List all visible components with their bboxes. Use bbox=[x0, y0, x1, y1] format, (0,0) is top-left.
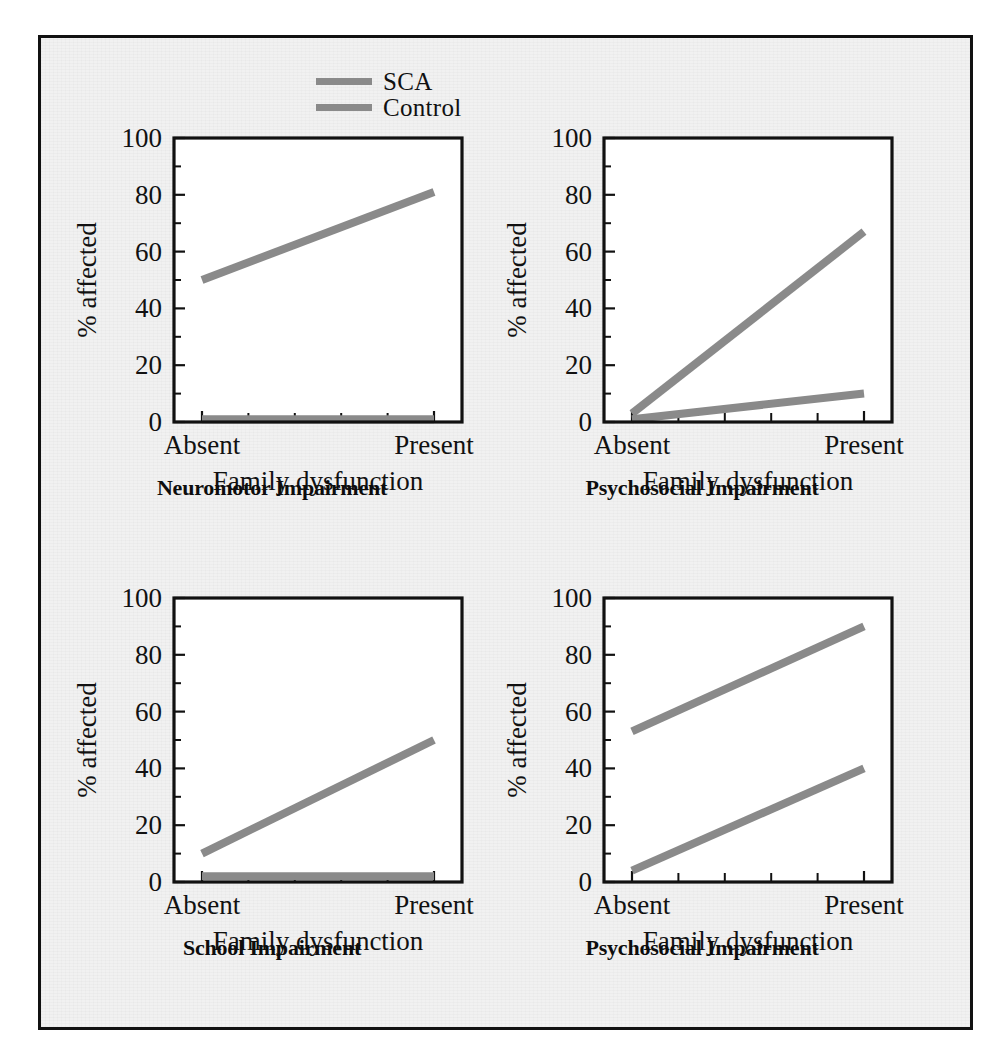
legend-swatch-control bbox=[316, 104, 372, 111]
plot-background bbox=[604, 598, 892, 882]
y-tick-label: 0 bbox=[579, 407, 593, 437]
chart-panel-psychosocial-impairment-bottom: 020406080100AbsentPresentFamily dysfunct… bbox=[492, 580, 912, 1000]
legend-label-sca: SCA bbox=[383, 69, 433, 94]
panel-title: Psychosocial Impairment bbox=[492, 935, 912, 961]
y-tick-label: 20 bbox=[135, 810, 162, 840]
y-tick-label: 100 bbox=[552, 123, 593, 153]
y-tick-label: 80 bbox=[135, 640, 162, 670]
y-tick-label: 60 bbox=[135, 697, 162, 727]
y-axis-title: % affected bbox=[502, 682, 532, 798]
chart-panel-psychosocial-impairment-top: 020406080100AbsentPresentFamily dysfunct… bbox=[492, 120, 912, 540]
y-tick-label: 60 bbox=[565, 697, 592, 727]
chart-panel-school-impairment: 020406080100AbsentPresentFamily dysfunct… bbox=[62, 580, 482, 1000]
y-axis-title: % affected bbox=[72, 682, 102, 798]
y-axis-title: % affected bbox=[502, 222, 532, 338]
legend-label-control: Control bbox=[383, 95, 462, 120]
y-tick-label: 0 bbox=[579, 867, 593, 897]
legend-item-sca: SCA bbox=[316, 68, 526, 94]
y-tick-label: 0 bbox=[149, 407, 163, 437]
x-tick-label: Present bbox=[394, 430, 474, 460]
y-tick-label: 20 bbox=[135, 350, 162, 380]
y-tick-label: 60 bbox=[565, 237, 592, 267]
y-tick-label: 40 bbox=[135, 293, 162, 323]
x-tick-label: Absent bbox=[164, 890, 241, 920]
x-tick-label: Present bbox=[824, 890, 904, 920]
figure-root: SCA Control 020406080100AbsentPresentFam… bbox=[0, 0, 1007, 1060]
y-tick-label: 40 bbox=[565, 293, 592, 323]
legend-item-control: Control bbox=[316, 94, 526, 120]
y-tick-label: 100 bbox=[122, 583, 163, 613]
chart-legend: SCA Control bbox=[316, 68, 526, 120]
plot-background bbox=[604, 138, 892, 422]
y-tick-label: 0 bbox=[149, 867, 163, 897]
y-tick-label: 80 bbox=[565, 640, 592, 670]
panel-title: School Impairment bbox=[62, 935, 482, 961]
legend-swatch-sca bbox=[316, 78, 372, 85]
y-tick-label: 80 bbox=[565, 180, 592, 210]
plot-background bbox=[174, 138, 462, 422]
x-tick-label: Present bbox=[394, 890, 474, 920]
y-tick-label: 60 bbox=[135, 237, 162, 267]
y-tick-label: 80 bbox=[135, 180, 162, 210]
x-tick-label: Absent bbox=[164, 430, 241, 460]
y-tick-label: 100 bbox=[122, 123, 163, 153]
y-tick-label: 20 bbox=[565, 350, 592, 380]
y-tick-label: 20 bbox=[565, 810, 592, 840]
plot-background bbox=[174, 598, 462, 882]
panel-title: Neuromotor Impairment bbox=[62, 475, 482, 501]
y-tick-label: 40 bbox=[565, 753, 592, 783]
y-tick-label: 40 bbox=[135, 753, 162, 783]
panel-title: Psychosocial Impairment bbox=[492, 475, 912, 501]
x-tick-label: Absent bbox=[594, 430, 671, 460]
y-axis-title: % affected bbox=[72, 222, 102, 338]
x-tick-label: Present bbox=[824, 430, 904, 460]
chart-panel-neuromotor-impairment: 020406080100AbsentPresentFamily dysfunct… bbox=[62, 120, 482, 540]
y-tick-label: 100 bbox=[552, 583, 593, 613]
x-tick-label: Absent bbox=[594, 890, 671, 920]
